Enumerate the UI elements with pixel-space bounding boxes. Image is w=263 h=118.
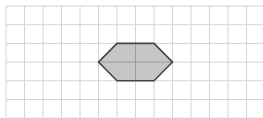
- grid-figure: [0, 0, 263, 118]
- hexagon-inner-grid-lines: [99, 43, 173, 80]
